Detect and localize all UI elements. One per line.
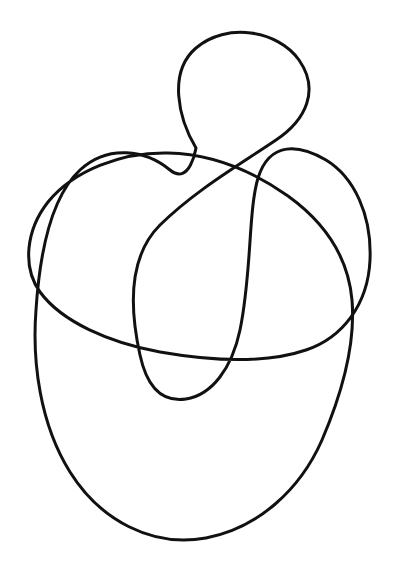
drawing-canvas: Figure 13. a b	[0, 0, 408, 574]
canvas-background	[0, 0, 408, 574]
continuous-line-drawing	[0, 0, 408, 574]
